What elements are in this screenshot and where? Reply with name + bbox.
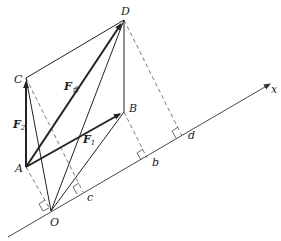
label-x-axis: x	[271, 83, 278, 96]
vector-F1	[26, 114, 120, 167]
label-F2: F2	[12, 118, 26, 132]
label-b: b	[152, 156, 159, 169]
label-O: O	[50, 216, 59, 229]
force-vectors	[26, 24, 121, 167]
projection-B-b	[124, 112, 147, 158]
side-C-D	[26, 20, 124, 78]
x-axis	[8, 84, 270, 237]
right-angle-c	[73, 183, 79, 194]
label-F1: F1	[82, 133, 95, 147]
right-angle-d	[172, 127, 178, 138]
label-C: C	[14, 73, 23, 86]
label-Fsum-sub: 合	[72, 86, 80, 94]
label-c: c	[87, 191, 93, 204]
force-projection-diagram: D C B A O c b d x F2 F1 F合	[0, 0, 281, 241]
label-D: D	[120, 5, 130, 18]
line-O-C	[26, 78, 51, 211]
label-B: B	[128, 102, 137, 115]
parallelogram-sides	[26, 20, 124, 112]
label-Fsum: F合	[63, 80, 80, 94]
projection-D-d	[124, 20, 182, 136]
label-d: d	[188, 129, 195, 142]
vector-Fsum	[26, 24, 121, 167]
label-F2-sub: 2	[20, 124, 26, 132]
label-A: A	[14, 162, 23, 175]
line-O-D	[51, 20, 124, 211]
label-F1-sub: 1	[91, 139, 95, 147]
